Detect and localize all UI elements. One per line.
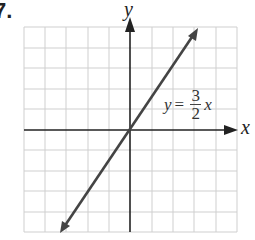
coordinate-plane [0,0,255,240]
problem-number: 7. [0,0,12,22]
line-arrow-down-icon [60,221,70,233]
equation-label: y = 3 2 x [164,88,212,121]
equation-variable: x [204,95,212,115]
equation-equals: = [175,95,185,115]
y-axis-label: y [124,0,133,19]
x-axis-label: x [241,117,250,137]
x-axis-arrow-icon [224,125,238,135]
fraction-numerator: 3 [191,88,200,103]
equation-fraction: 3 2 [190,88,201,121]
fraction-denominator: 2 [191,106,200,121]
equation-lhs: y [164,95,172,115]
